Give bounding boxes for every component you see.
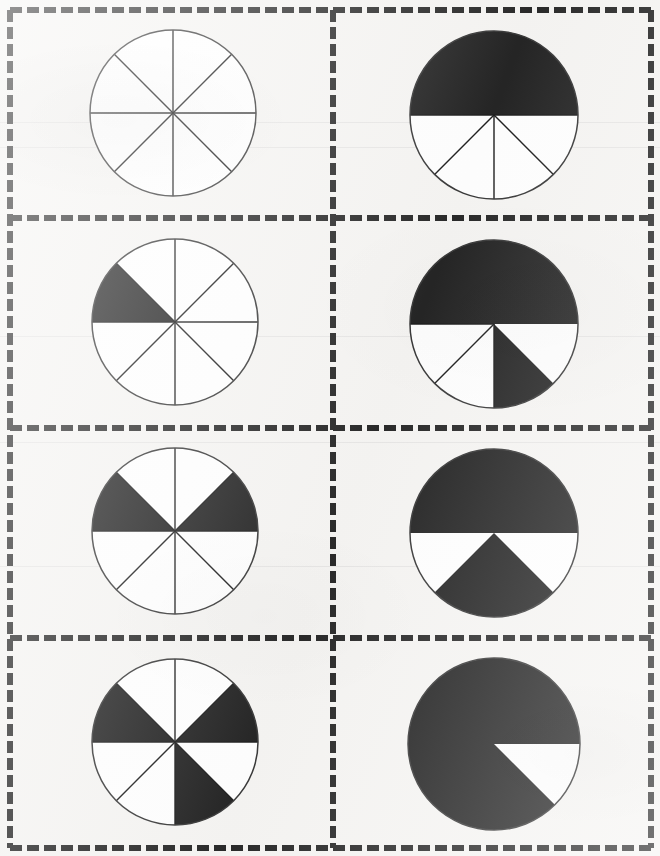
fraction-circle-4-2 [394, 644, 594, 844]
fraction-circle-3-1 [78, 434, 272, 628]
pie-svg [78, 434, 272, 628]
pie-svg [78, 225, 272, 419]
filled-sector-group-0 [410, 240, 578, 324]
fraction-circle-4-1 [78, 645, 272, 839]
fraction-circle-3-2 [396, 435, 592, 631]
filled-sector-group-0 [410, 31, 578, 115]
fraction-circle-2-1 [78, 225, 272, 419]
pie-svg [394, 644, 594, 844]
fraction-circle-1-2 [396, 17, 592, 213]
pie-svg [396, 226, 592, 422]
filled-sector-group-0 [410, 449, 578, 533]
fraction-circle-2-2 [396, 226, 592, 422]
pie-svg [396, 435, 592, 631]
pie-svg [78, 645, 272, 839]
filled-sector-group-0 [408, 658, 580, 830]
worksheet-page [0, 0, 660, 856]
pie-svg [76, 16, 270, 210]
fraction-circle-1-1 [76, 16, 270, 210]
pie-svg [396, 17, 592, 213]
